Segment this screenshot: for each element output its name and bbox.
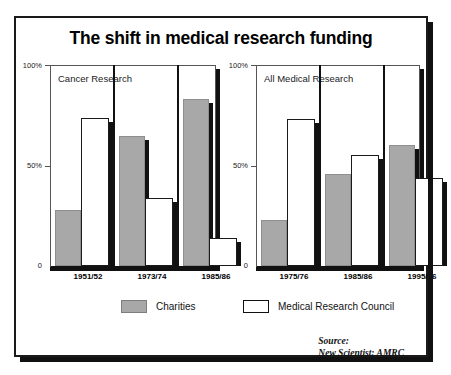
bar-charities-1951-52[interactable] [55,210,81,266]
bars-area-right [257,65,418,266]
source-note: Source: New Scientist; AMRC [318,335,404,359]
legend-swatch-mrc-icon [243,300,269,313]
bar-charities-1985-86-left[interactable] [183,99,209,266]
x-axis-baseline-right [256,266,424,271]
x-label-1973-74: 1973/74 [122,272,182,281]
legend-swatch-charities-icon [121,300,147,313]
group-divider-1 [113,65,115,266]
chart-legend: Charities Medical Research Council [16,300,426,320]
bar-charities-1973-74[interactable] [119,136,145,266]
group-divider-3 [319,65,321,266]
bar-mrc-1951-52[interactable] [81,118,109,266]
bar-mrc-1995-96-shadow [443,182,447,266]
bar-group-1951-52 [55,65,105,266]
y-axis-label-100-left: 100% [18,61,42,70]
legend-item-charities[interactable]: Charities [121,300,195,313]
frame-shadow-bottom [20,357,433,362]
group-divider-2 [177,65,179,266]
bar-mrc-1985-86-right[interactable] [351,155,379,266]
bars-area-left [51,65,214,266]
y-tick-100-left [45,65,50,66]
legend-label-mrc: Medical Research Council [278,301,394,312]
y-tick-50-left [45,166,50,167]
legend-label-charities: Charities [156,301,195,312]
source-line-1: Source: [318,335,404,347]
bar-charities-1975-76[interactable] [261,220,287,266]
bar-group-1973-74 [119,65,169,266]
x-label-1985-86-right: 1985/86 [328,272,388,281]
chart-panel-cancer-research: 100% 50% 0 Cancer Research [22,65,220,280]
bar-charities-1985-86-right[interactable] [325,174,351,266]
y-axis-label-50-right: 50% [224,161,248,170]
y-axis-label-0-left: 0 [20,261,42,270]
figure-frame: The shift in medical research funding 10… [14,16,428,357]
x-axis-labels-right: 1975/76 1985/86 1995/96 [256,272,424,286]
x-label-1995-96: 1995/96 [392,272,451,281]
frame-shadow-right [428,22,433,362]
x-label-1975-76: 1975/76 [264,272,324,281]
y-axis-label-0-right: 0 [226,261,248,270]
bar-mrc-1973-74[interactable] [145,198,173,266]
y-axis-label-50-left: 50% [18,161,42,170]
x-label-1951-52: 1951/52 [58,272,118,281]
y-tick-100-right [251,65,256,66]
bar-mrc-1975-76[interactable] [287,119,315,266]
legend-item-medical-research-council[interactable]: Medical Research Council [243,300,394,313]
bar-group-1975-76 [261,65,311,266]
group-divider-4 [383,65,385,266]
bar-charities-1995-96[interactable] [389,145,415,266]
y-axis-label-100-right: 100% [224,61,248,70]
y-tick-50-right [251,166,256,167]
bar-group-1985-86-right [325,65,375,266]
page-title: The shift in medical research funding [16,28,426,49]
x-axis-baseline-left [50,266,220,271]
x-axis-labels-left: 1951/52 1973/74 1985/86 [50,272,220,286]
chart-panel-all-medical-research: 100% 50% 0 All Medical Research [228,65,424,280]
